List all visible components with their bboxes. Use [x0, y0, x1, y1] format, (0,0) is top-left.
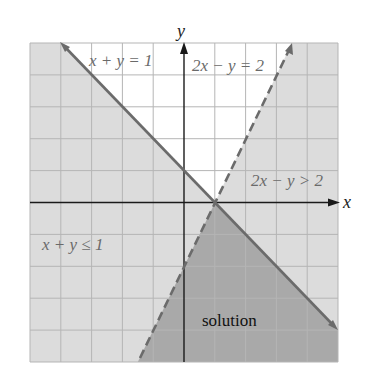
x-axis-label: x: [342, 192, 351, 212]
inequality-graph: x + y = 1 2x − y = 2 x + y ≤ 1 2x − y > …: [0, 0, 371, 376]
label-line-2: 2x − y = 2: [192, 56, 265, 75]
y-axis-arrow-icon: [180, 42, 188, 54]
label-region-1: x + y ≤ 1: [41, 235, 103, 254]
label-region-2: 2x − y > 2: [251, 171, 324, 190]
y-axis-label: y: [175, 21, 185, 41]
label-solution: solution: [202, 311, 257, 330]
label-line-1: x + y = 1: [88, 51, 153, 70]
